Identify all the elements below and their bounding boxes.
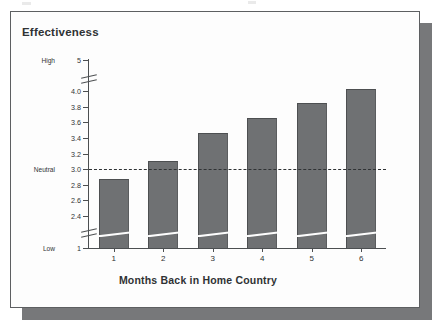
scan-artifact-top-right <box>248 1 256 4</box>
neutral-reference-line <box>89 169 386 170</box>
y-axis-tick-label: 1 <box>77 244 81 253</box>
bar-month-4[interactable] <box>247 118 277 248</box>
bar-month-3[interactable] <box>198 133 228 248</box>
y-axis-anchor-label-low: Low <box>11 245 55 252</box>
y-axis-anchor-label-high: High <box>11 57 55 64</box>
y-axis-tick-label: 3.8 <box>71 102 81 111</box>
chart-title: Effectiveness <box>22 26 99 38</box>
bar-month-5[interactable] <box>297 103 327 248</box>
y-axis-tick-label: 3.6 <box>71 118 81 127</box>
y-axis-tick-label: 3.0 <box>71 165 81 174</box>
x-axis-tick-label-6: 6 <box>359 254 363 263</box>
bar-month-1[interactable] <box>99 179 129 249</box>
x-axis-tick-label-1: 1 <box>112 254 116 263</box>
bar-month-2[interactable] <box>148 161 178 248</box>
y-axis-line <box>88 59 89 249</box>
x-axis-tick-label-5: 5 <box>310 254 314 263</box>
y-axis-tick-label: 3.4 <box>71 133 81 142</box>
x-axis-tick-label-3: 3 <box>211 254 215 263</box>
y-axis-tick-label: 2.6 <box>71 196 81 205</box>
y-axis-anchor-label-neutral: Neutral <box>11 166 55 173</box>
y-axis-tick-label: 3.2 <box>71 149 81 158</box>
x-axis-title: Months Back in Home Country <box>58 274 338 286</box>
scan-artifact-top-left <box>22 2 31 5</box>
y-axis-tick-label: 2.4 <box>71 212 81 221</box>
x-axis-tick-label-2: 2 <box>161 254 165 263</box>
y-axis-tick-label: 4.0 <box>71 87 81 96</box>
y-axis-tick-label: 2.8 <box>71 180 81 189</box>
chart-card: 5High4.03.83.63.43.23.0Neutral2.82.62.41… <box>10 11 420 308</box>
x-axis-line <box>88 248 386 249</box>
y-axis-tick-label: 5 <box>77 56 81 65</box>
chart-plot-area: 5High4.03.83.63.43.23.0Neutral2.82.62.41… <box>11 12 421 309</box>
x-axis-tick-label-4: 4 <box>260 254 264 263</box>
